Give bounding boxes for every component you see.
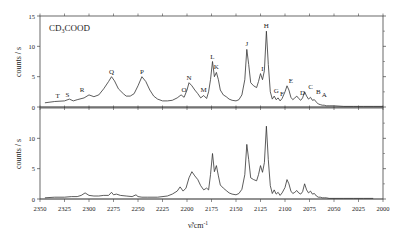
x-tick-label: 2225: [156, 205, 169, 212]
x-tick-label: 2075: [303, 205, 316, 212]
x-tick-label: 2325: [58, 205, 71, 212]
axis-tick-labels: 0510150510235023252300227522502225220021…: [29, 13, 390, 213]
x-tick-label: 2000: [377, 205, 390, 212]
x-tick-label: 2300: [83, 205, 96, 212]
y-axis-label-top: counts / s: [14, 47, 23, 77]
peak-label-M: M: [201, 86, 208, 94]
peak-label-T: T: [55, 92, 60, 100]
peak-label-D: D: [300, 89, 305, 97]
x-tick-label: 2200: [181, 205, 194, 212]
spectrum-figure: 0510150510235023252300227522502225220021…: [0, 0, 402, 236]
peak-label-N: N: [186, 74, 191, 82]
x-tick-label: 2150: [230, 205, 243, 212]
spectrum-line-bottom: [45, 126, 373, 198]
peak-label-P: P: [140, 68, 144, 76]
peak-label-Q: Q: [109, 68, 114, 76]
peak-label-B: B: [316, 88, 321, 96]
y-tick-label: 0: [32, 196, 35, 203]
y-tick-label: 0: [32, 104, 35, 111]
x-tick-label: 2050: [328, 205, 341, 212]
peak-label-R: R: [80, 86, 85, 94]
peak-label-S: S: [65, 91, 69, 99]
peak-label-E: E: [289, 77, 293, 85]
peak-label-O: O: [182, 86, 187, 94]
x-tick-label: 2125: [254, 205, 267, 212]
plot-frame-bottom: [40, 108, 383, 199]
x-tick-label: 2100: [279, 205, 292, 212]
x-tick-label: 2350: [34, 205, 47, 212]
y-tick-label: 15: [29, 13, 36, 20]
peak-label-K: K: [214, 63, 219, 71]
y-tick-label: 10: [29, 135, 36, 142]
molecule-title: CD3COOD: [49, 23, 91, 34]
y-axis-label-bottom: counts / s: [14, 139, 23, 169]
x-tick-label: 2250: [132, 205, 145, 212]
y-tick-label: 5: [32, 165, 35, 172]
x-axis-label: ν̃/cm-1: [188, 220, 208, 230]
peak-label-C: C: [308, 83, 313, 91]
y-tick-label: 5: [32, 73, 35, 80]
plot-frame-top: [40, 16, 383, 107]
peak-label-G: G: [274, 87, 279, 95]
peak-label-H: H: [264, 22, 269, 30]
y-tick-label: 10: [29, 43, 36, 50]
x-tick-label: 2175: [205, 205, 218, 212]
peak-label-L: L: [210, 53, 214, 61]
peak-label-A: A: [322, 91, 327, 99]
x-tick-label: 2275: [107, 205, 120, 212]
x-tick-label: 2025: [352, 205, 365, 212]
peak-label-J: J: [245, 40, 248, 48]
peak-label-F: F: [280, 90, 284, 98]
